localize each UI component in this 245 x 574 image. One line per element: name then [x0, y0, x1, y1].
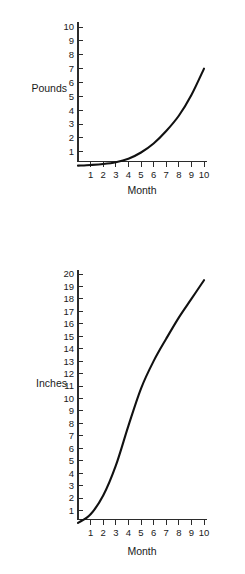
pounds-y-axis-label: Pounds: [31, 82, 67, 94]
pounds-xtick-2: 2: [101, 169, 106, 180]
inches-x-ticks: 12345678910: [88, 520, 209, 538]
pounds-xtick-10: 10: [199, 169, 210, 180]
chart-inches: 1234567891011121314151617181920 12345678…: [0, 215, 245, 574]
inches-ytick-10: 10: [63, 393, 74, 404]
inches-ytick-3: 3: [69, 480, 74, 491]
inches-xtick-9: 9: [189, 527, 194, 538]
inches-ytick-7: 7: [69, 430, 74, 441]
inches-ytick-20: 20: [63, 268, 74, 279]
inches-ytick-16: 16: [63, 318, 74, 329]
inches-x-axis-label: Month: [127, 545, 156, 557]
inches-ytick-19: 19: [63, 281, 74, 292]
pounds-ytick-4: 4: [69, 105, 74, 116]
inches-ytick-15: 15: [63, 331, 74, 342]
pounds-curve: [78, 69, 204, 166]
inches-y-axis: 1234567891011121314151617181920: [63, 268, 83, 519]
chart-pounds: 12345678910 12345678910 Pounds Month: [0, 0, 245, 215]
inches-xtick-1: 1: [88, 527, 93, 538]
pounds-ytick-3: 3: [69, 118, 74, 129]
inches-ytick-9: 9: [69, 405, 74, 416]
pounds-ytick-7: 7: [69, 63, 74, 74]
inches-x-axis: 12345678910: [78, 520, 209, 538]
pounds-xtick-7: 7: [164, 169, 169, 180]
pounds-xtick-8: 8: [176, 169, 181, 180]
pounds-x-axis-label: Month: [127, 184, 156, 196]
pounds-ytick-10: 10: [63, 21, 74, 32]
pounds-xtick-9: 9: [189, 169, 194, 180]
inches-xtick-4: 4: [126, 527, 131, 538]
inches-xtick-8: 8: [176, 527, 181, 538]
pounds-ytick-6: 6: [69, 77, 74, 88]
pounds-xtick-4: 4: [126, 169, 131, 180]
inches-curve: [78, 280, 204, 523]
pounds-ytick-1: 1: [69, 146, 74, 157]
pounds-xtick-1: 1: [88, 169, 93, 180]
inches-ytick-17: 17: [63, 306, 74, 317]
pounds-xtick-6: 6: [151, 169, 156, 180]
inches-ytick-5: 5: [69, 455, 74, 466]
pounds-ytick-8: 8: [69, 49, 74, 60]
inches-xtick-2: 2: [101, 527, 106, 538]
inches-ytick-18: 18: [63, 293, 74, 304]
pounds-xtick-3: 3: [113, 169, 118, 180]
inches-xtick-5: 5: [138, 527, 143, 538]
inches-xtick-7: 7: [164, 527, 169, 538]
inches-ytick-14: 14: [63, 343, 74, 354]
cut-off-caption-sliver: [0, 566, 245, 574]
inches-xtick-10: 10: [199, 527, 210, 538]
pounds-ytick-9: 9: [69, 35, 74, 46]
inches-y-ticks: 1234567891011121314151617181920: [63, 268, 83, 516]
inches-ytick-1: 1: [69, 505, 74, 516]
pounds-xtick-5: 5: [138, 169, 143, 180]
pounds-plot-area: 12345678910 12345678910 Pounds Month: [0, 0, 245, 215]
pounds-ytick-2: 2: [69, 132, 74, 143]
inches-xtick-6: 6: [151, 527, 156, 538]
inches-ytick-8: 8: [69, 418, 74, 429]
inches-ytick-6: 6: [69, 443, 74, 454]
inches-plot-area: 1234567891011121314151617181920 12345678…: [0, 215, 245, 574]
inches-ytick-2: 2: [69, 492, 74, 503]
inches-ytick-4: 4: [69, 468, 74, 479]
inches-y-axis-label: Inches: [36, 377, 67, 389]
inches-xtick-3: 3: [113, 527, 118, 538]
inches-ytick-13: 13: [63, 356, 74, 367]
pounds-ytick-5: 5: [69, 91, 74, 102]
